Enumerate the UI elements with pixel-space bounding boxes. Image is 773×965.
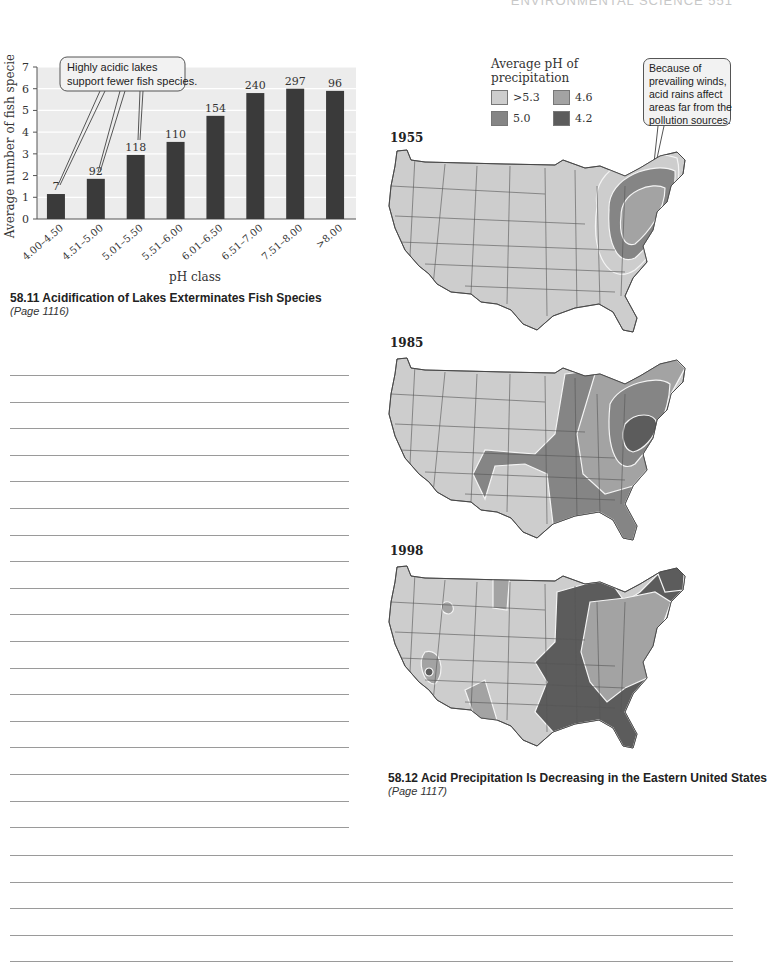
note-line [10, 508, 349, 509]
map-year-1985: 1985 [390, 336, 423, 350]
x-category-label: 6.01–6.50 [180, 222, 225, 262]
legend-label: >5.3 [513, 91, 540, 104]
note-line [10, 801, 349, 802]
x-category-label: 6.51–7.00 [220, 222, 265, 262]
note-line [10, 641, 349, 642]
legend-swatch [491, 90, 508, 105]
callout-line: acid rains affect [649, 88, 725, 101]
ph-zone [581, 592, 671, 702]
x-category-label: 5.01–5.50 [100, 222, 145, 262]
bar-data-label: 7 [52, 180, 59, 193]
note-line [10, 827, 349, 828]
bar [286, 89, 304, 219]
y-tick-label: 1 [22, 191, 29, 204]
callout-line: support fewer fish species. [67, 75, 197, 87]
map-1985 [385, 354, 705, 544]
caption-page: (Page 1117) [388, 785, 767, 797]
legend-label: 4.2 [575, 112, 593, 125]
y-tick-label: 3 [22, 148, 29, 161]
caption-page: (Page 1116) [10, 305, 322, 317]
callout-line: prevailing winds, [649, 75, 725, 88]
bar-data-label: 110 [165, 128, 186, 141]
ph-legend: Average pH of precipitation >5.3 4.6 5.0… [491, 57, 613, 126]
y-tick-label: 4 [22, 126, 29, 139]
x-category-label: >8.00 [314, 222, 345, 250]
y-tick-label: 7 [22, 61, 29, 74]
legend-title-line: Average pH of [491, 57, 613, 71]
legend-swatch [553, 90, 570, 105]
legend-swatch [553, 111, 570, 126]
prevailing-winds-callout: Because of prevailing winds, acid rains … [643, 58, 731, 126]
bar-data-label: 154 [205, 102, 226, 115]
legend-label: 5.0 [513, 112, 531, 125]
note-line-full [10, 961, 733, 962]
callout-line: areas far from the [649, 101, 725, 114]
figure-58-11-caption: 58.11 Acidification of Lakes Exterminate… [10, 291, 322, 317]
map-1955 [385, 146, 705, 336]
note-line [10, 614, 349, 615]
note-line-full [10, 882, 733, 883]
note-line [10, 535, 349, 536]
y-tick-label: 2 [22, 170, 29, 183]
legend-label: 4.6 [575, 91, 593, 104]
callout-line: Highly acidic lakes [67, 61, 158, 73]
caption-title: 58.11 Acidification of Lakes Exterminate… [10, 291, 322, 305]
ph-zone [493, 572, 510, 610]
x-category-label: 4.51–5.00 [60, 222, 105, 262]
note-line [10, 455, 349, 456]
y-tick-label: 5 [22, 104, 29, 117]
fish-species-bar-chart: 0123456774.00–4.50924.51–5.001185.01–5.5… [0, 55, 360, 305]
legend-title-line: precipitation [491, 71, 613, 85]
bar [47, 194, 65, 219]
ph-zone [442, 602, 454, 614]
note-line [10, 402, 349, 403]
ph-zone [623, 415, 657, 452]
note-line [10, 668, 349, 669]
legend-item-ph-5-0: 5.0 [491, 111, 553, 126]
legend-item-ph-4-2: 4.2 [553, 111, 613, 126]
running-head: ENVIRONMENTAL SCIENCE 551 [511, 0, 733, 8]
bar-data-label: 96 [328, 77, 342, 90]
x-category-label: 5.51–6.00 [140, 222, 185, 262]
y-tick-label: 6 [22, 83, 29, 96]
bar [167, 142, 185, 219]
note-line [10, 774, 349, 775]
note-line [10, 481, 349, 482]
x-category-label: 7.51–8.00 [259, 222, 304, 262]
bar [87, 179, 105, 219]
note-line [10, 721, 349, 722]
map-year-1998: 1998 [390, 544, 423, 558]
y-axis-title: Average number of fish species [3, 55, 17, 239]
note-line-full [10, 935, 733, 936]
bar-data-label: 240 [245, 79, 266, 92]
bar [206, 116, 224, 219]
map-1998 [385, 562, 705, 752]
bar-data-label: 118 [125, 141, 146, 154]
note-line [10, 747, 349, 748]
map-year-1955: 1955 [390, 131, 423, 145]
figure-58-12-caption: 58.12 Acid Precipitation Is Decreasing i… [388, 771, 767, 797]
legend-swatch [491, 111, 508, 126]
caption-title: 58.12 Acid Precipitation Is Decreasing i… [388, 771, 767, 785]
y-tick-label: 0 [22, 213, 29, 226]
note-line [10, 694, 349, 695]
bar [127, 155, 145, 219]
callout-line: Because of [649, 62, 725, 75]
bar-data-label: 297 [285, 75, 306, 88]
legend-title: Average pH of precipitation [491, 57, 613, 85]
ph-zone [425, 668, 433, 676]
note-line [10, 428, 349, 429]
note-line-full [10, 908, 733, 909]
note-line [10, 561, 349, 562]
bar [326, 91, 344, 219]
note-line [10, 375, 349, 376]
legend-item-ph-4-6: 4.6 [553, 90, 613, 105]
x-category-label: 4.00–4.50 [20, 222, 65, 262]
bar [246, 93, 264, 219]
x-axis-title: pH class [169, 270, 221, 284]
legend-item-ph-above-5-3: >5.3 [491, 90, 553, 105]
note-line [10, 588, 349, 589]
note-line-full [10, 855, 733, 856]
